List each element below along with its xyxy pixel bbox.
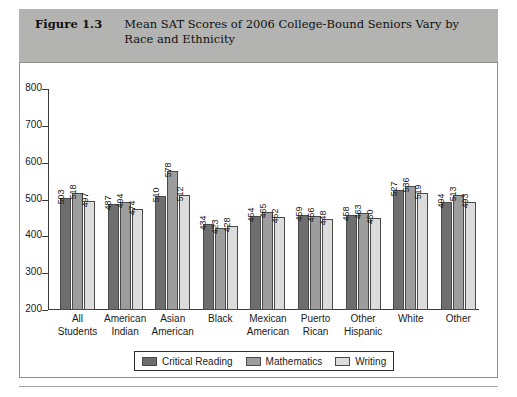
bar[interactable]: 512	[179, 195, 190, 310]
bar-value-label: 487	[103, 196, 113, 210]
bar-value-label: 519	[413, 184, 423, 198]
legend-swatch	[335, 357, 350, 366]
y-axis-tick-label: 300	[20, 266, 42, 277]
bar-group: 459456448	[298, 89, 333, 310]
y-axis-tick-label: 800	[20, 82, 42, 93]
bar[interactable]: 536	[405, 186, 416, 310]
bar[interactable]: 519	[417, 193, 428, 310]
bar-value-label: 518	[68, 185, 78, 199]
bar-value-label: 493	[460, 194, 470, 208]
bar-group: 458463450	[346, 89, 381, 310]
bar-value-label: 459	[294, 206, 304, 220]
bar[interactable]: 423	[215, 228, 226, 310]
bar-value-label: 434	[198, 216, 208, 230]
bar-value-label: 452	[270, 209, 280, 223]
y-axis-tick-label: 500	[20, 193, 42, 204]
bar-value-label: 450	[365, 210, 375, 224]
figure-header-band: Figure 1.3 Mean SAT Scores of 2006 Colle…	[19, 9, 498, 62]
x-axis-category-label-line: Other	[428, 313, 489, 326]
bar-value-label: 512	[175, 187, 185, 201]
bar-value-label: 513	[448, 187, 458, 201]
bar-value-label: 494	[436, 194, 446, 208]
x-axis-category-label-line: American	[142, 326, 203, 339]
figure-block: Figure 1.3 Mean SAT Scores of 2006 Colle…	[19, 9, 498, 378]
bar-group: 487494474	[108, 89, 143, 310]
bar-value-label: 458	[341, 207, 351, 221]
y-axis-tick-mark	[42, 310, 48, 311]
legend-label: Writing	[355, 356, 386, 367]
bar[interactable]: 456	[310, 216, 321, 310]
bar[interactable]: 459	[298, 215, 309, 310]
x-axis-category-label-line: Hispanic	[333, 326, 394, 339]
bar[interactable]: 434	[203, 224, 214, 310]
bar-value-label: 527	[389, 181, 399, 195]
bar[interactable]: 518	[72, 193, 83, 310]
bar[interactable]: 503	[60, 198, 71, 310]
bar[interactable]: 458	[346, 215, 357, 310]
bar-value-label: 503	[56, 190, 66, 204]
bar-value-label: 578	[163, 163, 173, 177]
figure-header-inner: Figure 1.3 Mean SAT Scores of 2006 Colle…	[35, 17, 484, 46]
bar-value-label: 423	[210, 220, 220, 234]
bar-value-label: 497	[80, 192, 90, 206]
chart-legend: Critical ReadingMathematicsWriting	[134, 351, 394, 371]
bar-value-label: 494	[115, 194, 125, 208]
x-axis-category-label: Other	[428, 313, 489, 326]
legend-item[interactable]: Critical Reading	[142, 356, 233, 367]
bar-value-label: 510	[151, 188, 161, 202]
bar-chart: 200300400500600700800 503518497487494474…	[20, 63, 497, 377]
bar-group: 527536519	[393, 89, 428, 310]
footer-divider	[19, 386, 498, 387]
bar-group: 434423428	[203, 89, 238, 310]
bar-value-label: 536	[401, 178, 411, 192]
bar-group: 503518497	[60, 89, 95, 310]
bar-group: 510578512	[155, 89, 190, 310]
y-axis-tick-mark	[42, 163, 48, 164]
x-axis-category-labels: AllStudentsAmericanIndianAsianAmericanBl…	[49, 313, 479, 347]
bar[interactable]: 494	[441, 202, 452, 310]
bar[interactable]: 474	[132, 209, 143, 310]
y-axis-tick-label: 700	[20, 119, 42, 130]
legend-swatch	[142, 357, 157, 366]
bar[interactable]: 463	[358, 213, 369, 310]
bar[interactable]: 465	[262, 212, 273, 310]
bar-value-label: 465	[258, 204, 268, 218]
bar[interactable]: 494	[120, 202, 131, 310]
legend-item[interactable]: Writing	[335, 356, 386, 367]
bar-group: 454465452	[250, 89, 285, 310]
bar-value-label: 454	[246, 208, 256, 222]
y-axis-tick-label: 200	[20, 303, 42, 314]
legend-swatch	[246, 357, 261, 366]
bar[interactable]: 454	[250, 216, 261, 310]
figure-number-label: Figure 1.3	[35, 17, 102, 31]
bar[interactable]: 448	[322, 219, 333, 310]
y-axis-tick-mark	[42, 89, 48, 90]
y-axis-tick-label: 400	[20, 229, 42, 240]
legend-label: Critical Reading	[162, 356, 233, 367]
figure-caption-text: Mean SAT Scores of 2006 College-Bound Se…	[124, 17, 476, 46]
bar[interactable]: 527	[393, 190, 404, 310]
bar-group: 494513493	[441, 89, 476, 310]
y-axis-tick-mark	[42, 273, 48, 274]
bar-value-label: 463	[353, 205, 363, 219]
bar[interactable]: 493	[465, 202, 476, 310]
bar[interactable]: 452	[274, 217, 285, 310]
bar[interactable]: 450	[370, 218, 381, 310]
bar-value-label: 448	[318, 210, 328, 224]
y-axis-tick-label: 600	[20, 156, 42, 167]
y-axis-tick-mark	[42, 200, 48, 201]
legend-label: Mathematics	[266, 356, 323, 367]
legend-item[interactable]: Mathematics	[246, 356, 323, 367]
bar[interactable]: 428	[227, 226, 238, 310]
bar[interactable]: 510	[155, 196, 166, 310]
bar-value-label: 474	[127, 201, 137, 215]
y-axis-tick-mark	[42, 126, 48, 127]
figure-card: 200300400500600700800 503518497487494474…	[19, 62, 498, 378]
bar-value-label: 456	[306, 208, 316, 222]
bar[interactable]: 513	[453, 195, 464, 310]
bars-layer: 5035184974874944745105785124344234284544…	[49, 89, 479, 310]
bar[interactable]: 487	[108, 204, 119, 310]
bar-value-label: 428	[222, 218, 232, 232]
bar[interactable]: 497	[84, 201, 95, 310]
y-axis-tick-mark	[42, 236, 48, 237]
